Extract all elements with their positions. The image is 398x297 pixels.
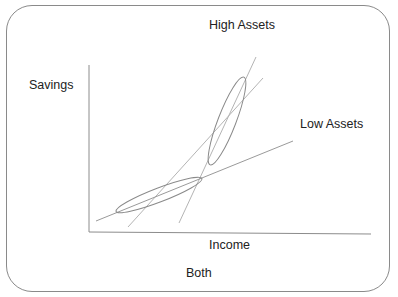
high-assets-label: High Assets — [209, 18, 275, 32]
high-assets-ellipse — [202, 74, 252, 168]
low-assets-label: Low Assets — [300, 117, 363, 131]
income-axis-label: Income — [209, 238, 250, 252]
both-label: Both — [186, 266, 212, 280]
high-assets-regression-line — [179, 57, 256, 223]
savings-income-diagram — [0, 0, 398, 297]
savings-axis-label: Savings — [29, 78, 73, 92]
x-axis — [89, 232, 371, 234]
